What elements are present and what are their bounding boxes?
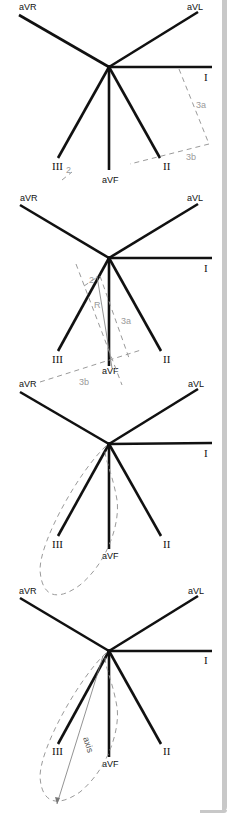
label-avl: aVL — [188, 379, 204, 389]
vector-loop — [40, 653, 118, 801]
label-r: R — [94, 300, 101, 310]
label-3a: 3a — [121, 316, 131, 326]
panel-1: aVR aVL I II III aVF 3a 3b 2 — [19, 2, 212, 185]
panel-3: aVR aVL I II III aVF — [19, 379, 212, 595]
label-avr: aVR — [19, 379, 37, 389]
lead-avl-line — [109, 12, 198, 67]
axis-arrowhead-icon — [55, 797, 60, 804]
label-avl: aVL — [187, 193, 203, 203]
label-2: 2 — [66, 165, 71, 175]
label-ii: II — [163, 160, 171, 172]
lead-avr-line — [20, 598, 109, 651]
lead-avr-line — [19, 15, 109, 67]
label-iii: III — [52, 745, 63, 757]
label-iii: III — [52, 353, 63, 365]
lead-ii-line — [109, 258, 161, 351]
construction-line-a — [76, 264, 122, 385]
label-avr: aVR — [19, 586, 37, 596]
label-avr: aVR — [19, 2, 37, 12]
label-ii: II — [163, 538, 171, 550]
label-i: I — [204, 654, 208, 666]
label-i: I — [204, 262, 208, 274]
label-2: 2 — [89, 275, 94, 285]
label-avf: aVF — [102, 175, 119, 185]
panel-2: aVR aVL I II III aVF 2 R 3a 3b — [20, 193, 212, 387]
lead-avl-line — [109, 389, 198, 444]
label-ii: II — [163, 745, 171, 757]
label-avf: aVF — [102, 366, 119, 376]
lead-avr-line — [20, 205, 109, 258]
label-avf: aVF — [102, 759, 119, 769]
lead-iii-line — [58, 67, 109, 158]
lead-i-line — [109, 443, 212, 444]
vector-loop — [40, 446, 118, 595]
axis-line — [57, 656, 103, 804]
label-i: I — [204, 447, 208, 459]
label-avr: aVR — [20, 193, 38, 203]
hexaxial-diagrams: aVR aVL I II III aVF 3a 3b 2 aVR aVL I I… — [0, 0, 233, 817]
lead-iii-line — [58, 651, 109, 744]
label-3b: 3b — [79, 377, 89, 387]
label-avl: aVL — [188, 586, 204, 596]
label-3b: 3b — [186, 152, 196, 162]
label-i: I — [204, 71, 208, 83]
lead-ii-line — [109, 67, 160, 158]
label-iii: III — [52, 538, 63, 550]
panel-4: aVR aVL I II III aVF axis — [19, 586, 212, 804]
lead-avl-line — [109, 596, 198, 651]
lead-avl-line — [109, 204, 198, 258]
label-axis: axis — [81, 736, 96, 755]
label-iii: III — [52, 160, 63, 172]
lead-ii-line — [109, 651, 161, 744]
label-avl: aVL — [187, 2, 203, 12]
label-avf: aVF — [102, 551, 119, 561]
label-ii: II — [163, 353, 171, 365]
lead-ii-line — [109, 444, 161, 536]
lead-iii-line — [58, 444, 109, 536]
lead-avr-line — [20, 392, 109, 444]
label-3a: 3a — [196, 100, 206, 110]
